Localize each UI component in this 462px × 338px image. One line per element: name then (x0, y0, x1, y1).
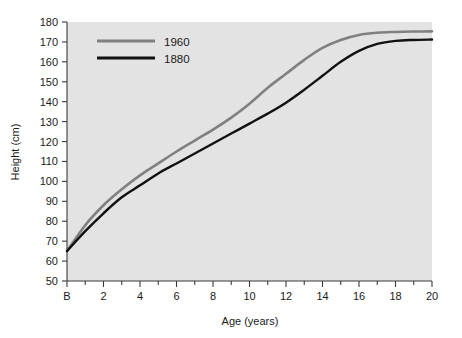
y-tick-label: 140 (40, 96, 58, 108)
y-tick-label: 180 (40, 16, 58, 28)
chart-figure: 5060708090100110120130140150160170180 B2… (0, 0, 462, 338)
x-tick-label: 2 (100, 290, 106, 302)
x-tick-label: 6 (173, 290, 179, 302)
x-axis-title: Age (years) (222, 315, 279, 327)
growth-chart: 5060708090100110120130140150160170180 B2… (0, 0, 462, 338)
x-tick-label: 8 (210, 290, 216, 302)
y-tick-label: 160 (40, 56, 58, 68)
x-tick-label: 4 (137, 290, 143, 302)
x-tick-label: 14 (316, 290, 328, 302)
y-tick-label: 100 (40, 175, 58, 187)
y-tick-label: 120 (40, 136, 58, 148)
x-tick-label: 12 (280, 290, 292, 302)
legend-label-1960: 1960 (164, 36, 190, 48)
x-tick-label: 16 (353, 290, 365, 302)
y-tick-label: 70 (46, 235, 58, 247)
y-tick-label: 130 (40, 116, 58, 128)
y-tick-label: 90 (46, 195, 58, 207)
x-tick-label: B (63, 290, 70, 302)
plot-area-background (67, 22, 432, 281)
x-tick-label: 18 (389, 290, 401, 302)
y-axis-title: Height (cm) (9, 124, 21, 181)
y-tick-label: 80 (46, 215, 58, 227)
legend-label-1880: 1880 (164, 53, 190, 65)
y-tick-label: 150 (40, 76, 58, 88)
y-tick-label: 60 (46, 255, 58, 267)
y-tick-label: 110 (40, 155, 58, 167)
y-tick-label: 50 (46, 275, 58, 287)
x-tick-label: 10 (243, 290, 255, 302)
x-tick-label: 20 (426, 290, 438, 302)
y-tick-label: 170 (40, 36, 58, 48)
